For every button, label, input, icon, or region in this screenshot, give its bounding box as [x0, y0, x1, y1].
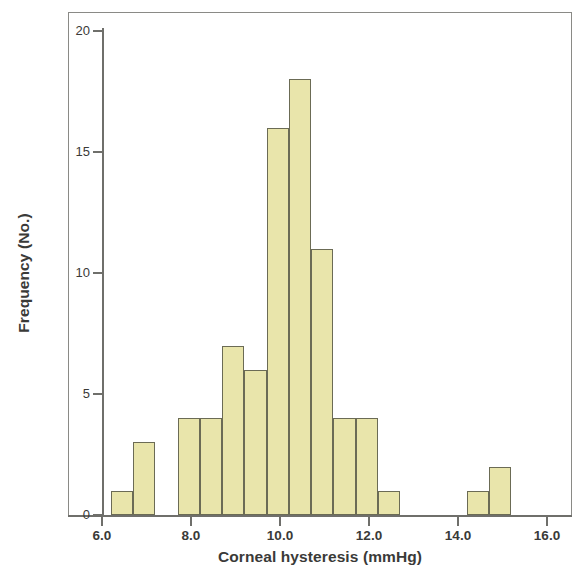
y-axis-title: Frequency (No.) — [15, 153, 33, 393]
histogram-figure: 05101520 6.08.010.012.014.016.0 Corneal … — [0, 0, 582, 579]
histogram-bar — [133, 442, 155, 515]
histogram-bar — [489, 467, 511, 515]
histogram-bar — [222, 346, 244, 515]
histogram-bar — [267, 128, 289, 515]
histogram-bar — [467, 491, 489, 515]
histogram-bar — [289, 79, 311, 515]
histogram-bar — [356, 418, 378, 515]
histogram-bar — [333, 418, 355, 515]
histogram-bar — [111, 491, 133, 515]
histogram-bar — [200, 418, 222, 515]
histogram-bar — [244, 370, 266, 515]
x-axis-title: Corneal hysteresis (mmHg) — [68, 548, 572, 566]
histogram-bar — [378, 491, 400, 515]
histogram-bars — [0, 0, 582, 579]
histogram-bar — [178, 418, 200, 515]
histogram-bar — [311, 249, 333, 515]
